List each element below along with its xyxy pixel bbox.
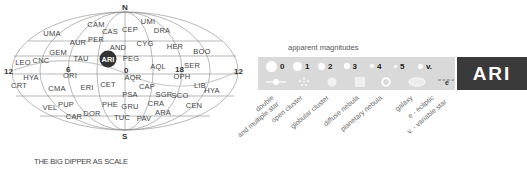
constellation-label-sgr[interactable]: SGR	[156, 90, 173, 99]
constellation-label-per[interactable]: PER	[88, 35, 104, 44]
globular-cluster-icon	[326, 77, 338, 87]
constellation-label-phe[interactable]: PHE	[102, 100, 118, 109]
legend-panel: 012345v. e	[258, 57, 455, 90]
south-label: S	[122, 132, 128, 140]
star-dot-icon	[370, 64, 374, 68]
constellation-label-pav[interactable]: PAV	[137, 114, 152, 123]
constellation-label-aur[interactable]: AUR	[70, 38, 87, 47]
magnitude-v: v.	[418, 60, 432, 72]
constellation-label-cas[interactable]: CAS	[102, 27, 118, 36]
diffuse-nebula-icon	[355, 77, 365, 87]
scale-caption: THE BIG DIPPER AS SCALE	[34, 157, 128, 166]
constellation-label-her[interactable]: HER	[167, 42, 184, 51]
constellation-label-sco[interactable]: SCO	[172, 91, 189, 100]
constellation-label-ser[interactable]: SER	[184, 61, 200, 70]
magnitude-4: 4	[370, 60, 381, 72]
magnitude-label: 4	[377, 62, 381, 71]
ecliptic-marker: e	[445, 79, 449, 86]
constellation-label-cet[interactable]: CET	[100, 80, 116, 89]
constellation-label-aql[interactable]: AQL	[150, 62, 166, 71]
sky-map: N S 12 6 0 18 12 CAMCASCEPUMIDRAUMAAURPE…	[0, 0, 250, 140]
constellation-label-vel[interactable]: VEL	[43, 103, 58, 112]
constellation-label-tuc[interactable]: TUC	[114, 113, 130, 122]
constellation-label-leo[interactable]: LEO	[15, 58, 31, 67]
constellation-label-cma[interactable]: CMA	[48, 84, 65, 93]
constellation-label-pup[interactable]: PUP	[58, 100, 74, 109]
constellation-label-cen[interactable]: CEN	[186, 101, 202, 110]
legend-label-planetary-nebula: planetary nebula	[339, 94, 384, 133]
constellation-label-cep[interactable]: CEP	[122, 25, 138, 34]
star-dot-icon	[293, 62, 302, 71]
constellation-label-crt[interactable]: CRT	[11, 81, 27, 90]
star-dot-icon	[344, 63, 350, 69]
constellation-label-eri[interactable]: ERI	[80, 83, 93, 92]
constellation-label-peg[interactable]: PEG	[123, 54, 139, 63]
open-cluster-icon	[298, 77, 310, 87]
ra-label-12-left: 12	[4, 67, 13, 76]
constellation-label-cra[interactable]: CRA	[148, 99, 164, 108]
north-label: N	[122, 3, 128, 12]
galaxy-icon	[408, 77, 426, 87]
constellation-label-dra[interactable]: DRA	[154, 26, 170, 35]
constellation-label-uma[interactable]: UMA	[43, 29, 60, 38]
legend-title: apparent magnitudes	[288, 43, 358, 52]
magnitude-label: 0	[280, 62, 284, 71]
constellation-label-umi[interactable]: UMI	[141, 17, 155, 26]
constellation-label-gem[interactable]: GEM	[49, 48, 67, 57]
magnitude-5: 5	[394, 60, 404, 72]
constellation-label-dor[interactable]: DOR	[83, 109, 101, 118]
constellation-label-car[interactable]: CAR	[66, 112, 83, 121]
constellation-badge: ARI	[457, 57, 527, 90]
constellation-label-oph[interactable]: OPH	[174, 72, 191, 81]
highlight-ari[interactable]: ARI	[100, 51, 117, 68]
star-dot-icon	[266, 61, 277, 72]
magnitude-3: 3	[344, 60, 357, 72]
constellation-label-gru[interactable]: GRU	[121, 102, 138, 111]
magnitude-label: 2	[328, 62, 332, 71]
constellation-label-psa[interactable]: PSA	[122, 90, 138, 99]
magnitude-label: 1	[305, 62, 309, 71]
constellation-label-tau[interactable]: TAU	[73, 54, 88, 63]
magnitude-0: 0	[266, 60, 284, 72]
constellation-label-cyg[interactable]: CYG	[137, 39, 154, 48]
constellation-label-cap[interactable]: CAP	[139, 82, 155, 91]
magnitude-label: v.	[426, 62, 432, 71]
magnitude-label: 3	[353, 62, 357, 71]
constellation-labels: CAMCASCEPUMIDRAUMAAURPERANDCYGHERBOOGEMT…	[11, 17, 220, 123]
highlight-ari-label: ARI	[102, 55, 115, 64]
constellation-label-ori[interactable]: ORI	[63, 71, 77, 80]
object-type-row: e	[258, 75, 455, 89]
constellation-label-hya[interactable]: HYA	[204, 86, 219, 95]
constellation-label-boo[interactable]: BOO	[193, 47, 210, 56]
constellation-label-aqr[interactable]: AQR	[125, 73, 142, 82]
ra-label-12-right: 12	[234, 67, 243, 76]
star-dot-icon	[394, 65, 397, 68]
constellation-label-cnc[interactable]: CNC	[33, 56, 50, 65]
magnitude-label: 5	[400, 62, 404, 71]
star-dot-icon	[418, 64, 423, 69]
magnitude-2: 2	[318, 60, 332, 72]
constellation-label-ara[interactable]: ARA	[155, 108, 171, 117]
double-star-icon	[266, 77, 286, 87]
planetary-nebula-icon	[380, 77, 392, 87]
magnitude-1: 1	[293, 60, 309, 72]
constellation-label-and[interactable]: AND	[110, 43, 127, 52]
star-dot-icon	[318, 63, 325, 70]
